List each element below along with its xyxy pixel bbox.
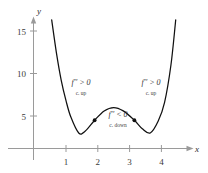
y-axis-arrow-icon	[31, 17, 36, 24]
y-tick-label-5: 5	[22, 112, 27, 122]
annotation-concave-up-left: f′′ > 0 c. up	[71, 78, 90, 96]
y-tick-label-10: 10	[17, 69, 27, 79]
y-axis-group: 15 10 5 y	[17, 6, 41, 160]
annotation-right-expression: f′′ > 0	[141, 78, 160, 87]
annotation-middle-expression: f′′ < 0	[108, 110, 127, 119]
concavity-graph-figure: 15 10 5 y 1 2 3 4 x f′′ > 0 c. up	[0, 0, 208, 173]
annotation-concave-up-right: f′′ > 0 c. up	[141, 78, 160, 96]
y-axis-label: y	[36, 6, 41, 16]
annotation-right-caption: c. up	[146, 90, 157, 96]
annotation-concave-down-middle: f′′ < 0 c. down	[108, 110, 127, 128]
x-tick-label-2: 2	[96, 157, 101, 167]
annotation-left-expression: f′′ > 0	[71, 78, 90, 87]
annotation-middle-caption: c. down	[109, 122, 127, 128]
annotation-left-caption: c. up	[76, 90, 87, 96]
x-axis-label: x	[194, 144, 199, 154]
plot-canvas: 15 10 5 y 1 2 3 4 x f′′ > 0 c. up	[0, 0, 208, 173]
x-axis-group: 1 2 3 4 x	[8, 144, 199, 167]
inflection-point-right-dot	[132, 118, 136, 122]
y-tick-label-15: 15	[17, 27, 27, 37]
x-axis-arrow-icon	[187, 146, 194, 151]
x-tick-label-1: 1	[64, 157, 69, 167]
inflection-point-left-dot	[93, 118, 97, 122]
x-tick-label-4: 4	[159, 157, 164, 167]
x-tick-label-3: 3	[127, 157, 132, 167]
